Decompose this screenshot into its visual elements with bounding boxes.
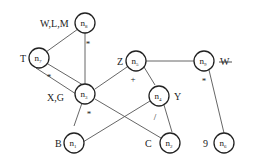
node-circle: [75, 13, 95, 33]
node-circle: [126, 51, 146, 71]
operator-n4: /: [154, 112, 157, 122]
node-label: Y: [174, 91, 181, 102]
node-circle: [194, 51, 214, 71]
node-circle: [75, 84, 95, 104]
node-n2: n2 C: [145, 133, 180, 153]
node-n8: n8 W,L,M: [40, 13, 95, 33]
node-label: Z: [117, 56, 123, 67]
edge-n7-n3-lower: [36, 68, 76, 94]
operator-n8: *: [86, 39, 91, 49]
node-n4: n4 Y: [149, 86, 181, 106]
node-circle: [64, 133, 84, 153]
edge-n5-n4: [144, 67, 155, 85]
edge-n4-n2: [164, 105, 172, 132]
node-n5: n5 Z: [117, 51, 146, 71]
edge-n3-n2: [95, 99, 161, 138]
node-label: 9: [203, 138, 208, 149]
node-label: W: [220, 56, 230, 67]
edges: [36, 29, 224, 142]
node-circle: [29, 48, 49, 68]
node-circle: [160, 133, 180, 153]
node-label: B: [55, 138, 62, 149]
edge-n7-n3-upper: [48, 64, 83, 85]
node-label: T: [20, 53, 26, 64]
operator-n9: *: [202, 76, 207, 86]
node-n6: n6 9: [203, 133, 234, 153]
node-n9: n9 W: [194, 51, 232, 71]
node-circle: [149, 86, 169, 106]
node-circle: [214, 133, 234, 153]
node-n7: n7 T: [20, 48, 49, 68]
node-label: W,L,M: [40, 18, 69, 29]
edge-n3-n5: [95, 67, 127, 89]
node-label: X,G: [47, 92, 64, 103]
operator-n5: +: [130, 74, 135, 84]
dag-diagram: n8 W,L,M n7 T n3 X,G n5 Z n4 Y n9 W n1 B…: [0, 0, 255, 164]
operator-n7: *: [47, 72, 52, 82]
node-n1: n1 B: [55, 133, 84, 153]
edge-n4-n1: [83, 101, 150, 142]
node-n3: n3 X,G: [47, 84, 95, 104]
operator-n3: *: [87, 109, 92, 119]
operators: * * * + / *: [47, 39, 207, 122]
edge-n8-n7: [46, 29, 78, 52]
edge-n3-n1: [74, 103, 82, 126]
node-label: C: [145, 138, 152, 149]
edge-n9-n6: [209, 70, 224, 133]
